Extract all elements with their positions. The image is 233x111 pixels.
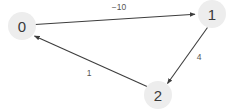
graph-node-2-label: 2 bbox=[154, 87, 162, 104]
graph-node-0-label: 0 bbox=[18, 18, 26, 35]
edge-1-to-2-line bbox=[168, 28, 208, 84]
edge-2-to-0-weight: 1 bbox=[87, 68, 92, 78]
graph-node-1[interactable]: 1 bbox=[198, 0, 226, 28]
edge-2-to-0-line bbox=[35, 36, 148, 87]
edge-1-to-2-weight: 4 bbox=[197, 52, 202, 62]
edge-0-to-1-line bbox=[35, 14, 195, 24]
graph-node-0[interactable]: 0 bbox=[8, 12, 36, 40]
graph-svg: −10 4 1 0 1 2 bbox=[0, 0, 233, 111]
graph-node-2[interactable]: 2 bbox=[144, 81, 172, 109]
edge-1-to-2: 4 bbox=[168, 28, 208, 84]
edge-0-to-1-weight: −10 bbox=[112, 2, 127, 12]
edge-2-to-0: 1 bbox=[35, 36, 148, 87]
edge-0-to-1: −10 bbox=[35, 2, 195, 25]
graph-canvas: −10 4 1 0 1 2 bbox=[0, 0, 233, 111]
graph-node-1-label: 1 bbox=[208, 6, 216, 23]
